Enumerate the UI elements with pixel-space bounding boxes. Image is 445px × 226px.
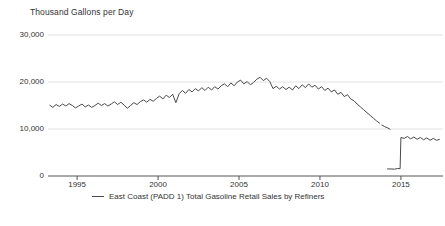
y-tick-label: 20,000 <box>0 77 44 86</box>
y-tick-label: 0 <box>0 171 44 180</box>
x-tick-label: 2005 <box>219 180 259 189</box>
legend-label: East Coast (PADD 1) Total Gasoline Retai… <box>109 192 324 201</box>
data-series <box>50 77 440 169</box>
series-line <box>400 137 440 169</box>
chart-container: Thousand Gallons per Day 010,00020,00030… <box>0 0 445 226</box>
series-line <box>50 77 380 123</box>
x-tick-label: 2000 <box>138 180 178 189</box>
y-tick-label: 30,000 <box>0 30 44 39</box>
x-tick-label: 2015 <box>381 180 421 189</box>
legend-line-swatch <box>92 196 104 197</box>
x-tick-label: 1995 <box>57 180 97 189</box>
gridlines <box>48 35 443 129</box>
y-tick-label: 10,000 <box>0 124 44 133</box>
chart-legend: East Coast (PADD 1) Total Gasoline Retai… <box>92 192 324 201</box>
x-tick-label: 2010 <box>300 180 340 189</box>
series-line <box>387 168 400 169</box>
